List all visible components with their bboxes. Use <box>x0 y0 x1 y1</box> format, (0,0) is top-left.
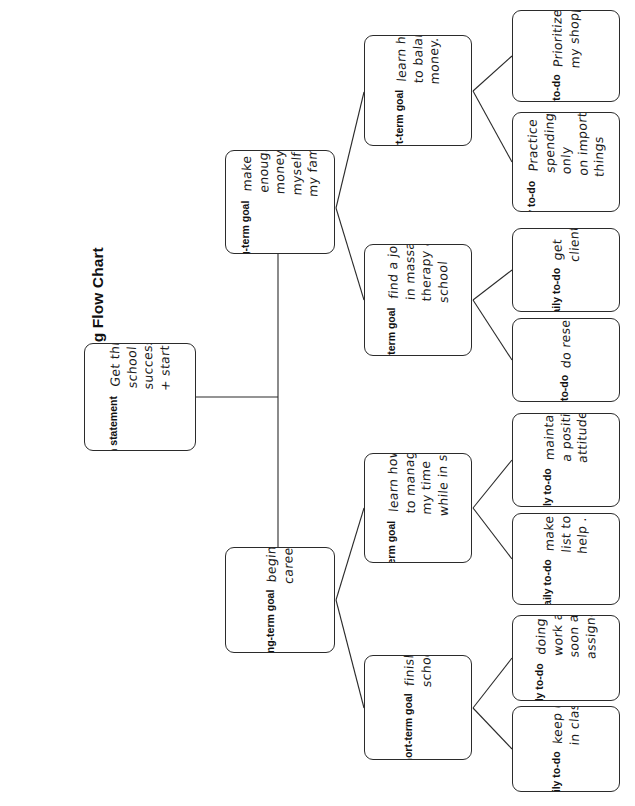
short-term-goal-label-4: Short-term goal <box>402 693 414 760</box>
connector-stg2-to-todo3 <box>473 270 512 300</box>
daily-todo-label-5: Daily to-do <box>541 468 553 507</box>
connector-stg1-to-todo1 <box>473 56 512 91</box>
daily-todo-text-8: keep upin class <box>549 706 583 746</box>
mission-statement-text: Get throughschoolsuccessfully+ start fre… <box>106 343 174 392</box>
short-term-goal-text-2: find a jobin massagetherapy afterschool <box>384 244 452 303</box>
daily-todo-box-3[interactable]: Daily to-do getclients <box>512 228 620 312</box>
connector-stg3-to-todo5 <box>473 460 512 508</box>
daily-todo-box-8[interactable]: Daily to-do keep upin class <box>512 706 620 792</box>
daily-todo-box-5[interactable]: Daily to-do maintaina positiveattitude <box>512 413 620 507</box>
long-term-goal-box-1[interactable]: Long-term goal makeenoughmoney formyself… <box>225 150 335 254</box>
daily-todo-box-2[interactable]: Daily to-do Practicespendingonlyon impor… <box>512 112 620 212</box>
mission-statement-label: Mission statement <box>107 396 119 451</box>
short-term-goal-text-3: learn howto managemy timewhile in school <box>384 453 452 517</box>
long-term-goal-box-2[interactable]: Long-term goal begin acareer <box>225 547 335 653</box>
daily-todo-box-1[interactable]: Daily to-do Prioritizemy shopping <box>512 10 620 102</box>
connector-stg3-to-todo6 <box>473 508 512 559</box>
mission-statement-box[interactable]: Mission statement Get throughschoolsucce… <box>84 343 196 451</box>
connector-stg2-to-todo4 <box>473 300 512 360</box>
daily-todo-text-1: Prioritizemy shopping <box>549 10 584 69</box>
daily-todo-label-3: Daily to-do <box>550 268 562 312</box>
daily-todo-label-8: Daily to-do <box>550 751 562 792</box>
short-term-goal-box-1[interactable]: Short-term goal learn howto balancemoney… <box>364 35 472 146</box>
connector-ltg2-to-stg4 <box>336 600 364 708</box>
long-term-goal-text-1: makeenoughmoney formyself +my family <box>238 150 322 197</box>
daily-todo-box-6[interactable]: Daily to-do make alist tohelp . <box>512 513 620 605</box>
daily-todo-text-3: getclients <box>549 228 583 262</box>
daily-todo-label-4: Daily to-do <box>558 375 570 402</box>
daily-todo-label-7: Daily to-do <box>533 663 545 701</box>
daily-todo-label-6: Daily to-do <box>541 559 553 605</box>
short-term-goal-text-4: finishschool <box>401 655 435 687</box>
short-term-goal-box-2[interactable]: Short-term goal find a jobin massagether… <box>364 244 472 356</box>
short-term-goal-label-1: Short-term goal <box>393 89 405 146</box>
daily-todo-label-2: Daily to-do <box>525 181 537 212</box>
daily-todo-text-2: Practicespendingonlyon importantthings <box>524 112 608 177</box>
connector-ltg1-to-stg1 <box>336 92 364 208</box>
flow-chart-page: Goal-Setting Flow Chart Mission statemen… <box>0 0 635 806</box>
connector-stg4-to-todo7 <box>473 658 512 708</box>
connector-ltg1-to-stg2 <box>336 208 364 300</box>
connector-ltg2-to-stg3 <box>336 508 364 600</box>
short-term-goal-label-2: Short-term goal <box>385 307 397 356</box>
connector-stg4-to-todo8 <box>473 708 512 749</box>
connector-stg1-to-todo2 <box>473 91 512 162</box>
short-term-goal-box-4[interactable]: Short-term goal finishschool <box>364 655 472 760</box>
long-term-goal-text-2: begin acareer <box>263 547 297 584</box>
daily-todo-box-4[interactable]: Daily to-do do research <box>512 318 620 402</box>
daily-todo-text-4: do research <box>557 318 575 369</box>
daily-todo-text-7: doingwork assoon asassigned <box>532 615 599 659</box>
daily-todo-label-1: Daily to-do <box>550 74 562 102</box>
daily-todo-text-5: maintaina positiveattitude <box>541 413 592 463</box>
daily-todo-box-7[interactable]: Daily to-do doingwork assoon asassigned <box>512 615 620 701</box>
daily-todo-text-6: make alist tohelp . <box>541 513 591 554</box>
long-term-goal-label-2: Long-term goal <box>264 590 276 653</box>
long-term-goal-label-1: Long-term goal <box>239 201 251 254</box>
short-term-goal-label-3: Short-term goal <box>385 521 397 563</box>
short-term-goal-box-3[interactable]: Short-term goal learn howto managemy tim… <box>364 453 472 563</box>
short-term-goal-text-1: learn howto balancemoney. <box>393 35 444 84</box>
